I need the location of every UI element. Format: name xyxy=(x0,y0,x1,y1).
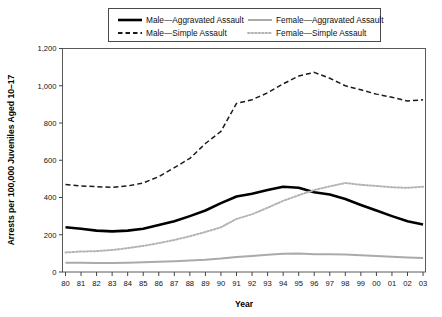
y-tick-label: 1,200 xyxy=(37,44,56,53)
x-tick-label: 03 xyxy=(419,279,427,288)
legend-label-2: Male—Simple Assault xyxy=(146,28,227,38)
x-tick-label: 89 xyxy=(201,279,209,288)
x-tick-label: 92 xyxy=(248,279,256,288)
y-axis: 02004006008001,0001,200 xyxy=(37,44,62,276)
x-tick-label: 88 xyxy=(186,279,194,288)
y-tick-label: 400 xyxy=(44,193,57,202)
x-tick-label: 94 xyxy=(279,279,287,288)
x-tick-label: 82 xyxy=(92,279,100,288)
y-tick-label: 0 xyxy=(52,268,56,277)
chart-figure: 02004006008001,0001,200 8081828384858687… xyxy=(0,0,442,317)
legend-label-0: Male—Aggravated Assault xyxy=(146,15,244,25)
x-tick-label: 98 xyxy=(341,279,349,288)
x-tick-label: 00 xyxy=(372,279,380,288)
x-tick-label: 83 xyxy=(108,279,116,288)
x-tick-label: 90 xyxy=(217,279,225,288)
x-tick-label: 86 xyxy=(155,279,163,288)
x-tick-label: 84 xyxy=(123,279,131,288)
x-tick-label: 02 xyxy=(403,279,411,288)
x-tick-label: 81 xyxy=(77,279,85,288)
x-tick-label: 99 xyxy=(357,279,365,288)
x-tick-label: 97 xyxy=(326,279,334,288)
x-tick-label: 85 xyxy=(139,279,147,288)
x-tick-label: 01 xyxy=(388,279,396,288)
x-tick-label: 80 xyxy=(61,279,69,288)
x-tick-label: 93 xyxy=(263,279,271,288)
legend-label-3: Female—Simple Assault xyxy=(276,28,367,38)
y-axis-title: Arrests per 100,000 Juveniles Aged 10–17 xyxy=(6,74,16,245)
y-tick-label: 800 xyxy=(44,119,57,128)
x-tick-label: 96 xyxy=(310,279,318,288)
chart-legend: Male—Aggravated AssaultFemale—Aggravated… xyxy=(109,9,385,42)
arrest-rate-line-chart: 02004006008001,0001,200 8081828384858687… xyxy=(0,0,442,317)
x-tick-label: 95 xyxy=(294,279,302,288)
x-tick-label: 87 xyxy=(170,279,178,288)
x-axis: 8081828384858687888990919293949596979899… xyxy=(61,272,427,288)
y-tick-label: 600 xyxy=(44,156,57,165)
x-axis-title: Year xyxy=(235,299,254,309)
x-tick-label: 91 xyxy=(232,279,240,288)
plot-area-border xyxy=(63,49,426,273)
y-tick-label: 1,000 xyxy=(37,82,56,91)
y-tick-label: 200 xyxy=(44,231,57,240)
legend-label-1: Female—Aggravated Assault xyxy=(276,15,384,25)
